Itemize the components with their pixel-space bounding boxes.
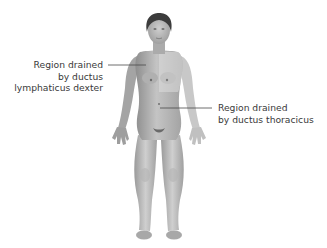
label-left-line-3: lymphaticus dexter xyxy=(14,82,103,94)
label-left-line-1: Region drained xyxy=(14,59,103,71)
label-ductus-lymphaticus-dexter: Region drained by ductus lymphaticus dex… xyxy=(14,59,103,94)
torso xyxy=(135,42,182,140)
label-right-line-2: by ductus thoracicus xyxy=(218,114,314,126)
label-left-line-2: by ductus xyxy=(14,71,103,83)
legs xyxy=(134,135,184,240)
diagram-canvas: Region drained by ductus lymphaticus dex… xyxy=(0,0,327,248)
head xyxy=(146,13,171,44)
label-ductus-thoracicus: Region drained by ductus thoracicus xyxy=(218,102,314,125)
label-right-line-1: Region drained xyxy=(218,102,314,114)
